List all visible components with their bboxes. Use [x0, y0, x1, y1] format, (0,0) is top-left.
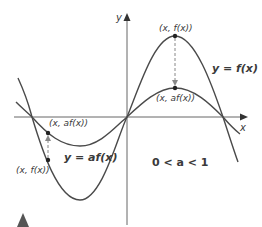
label-right-af: (x, af(x))	[156, 93, 195, 103]
right-compression-arrow	[172, 38, 178, 86]
x-axis-arrow-icon	[240, 114, 248, 121]
arrow-up-icon	[45, 135, 51, 141]
y-axis-label: y	[115, 12, 123, 23]
condition-label: 0 < a < 1	[152, 156, 208, 169]
label-left-f: (x, f(x))	[16, 165, 50, 175]
label-left-af: (x, af(x))	[49, 118, 88, 128]
point-left-f	[46, 158, 50, 162]
label-curve-f: y = f(x)	[212, 62, 258, 75]
arrow-down-icon	[172, 80, 178, 86]
y-axis-arrow-icon	[124, 13, 131, 21]
triangle-marker-icon	[17, 213, 29, 227]
point-right-af	[173, 86, 177, 90]
label-right-f: (x, f(x))	[159, 23, 193, 33]
x-axis-label: x	[239, 122, 246, 133]
label-curve-af: y = af(x)	[64, 151, 117, 164]
point-left-af	[46, 131, 50, 135]
transformation-diagram: x y (x, f(x)) (x, af(x)) (x, af(x)) (x, …	[0, 0, 262, 227]
left-compression-arrow	[45, 135, 51, 158]
point-right-f	[173, 34, 177, 38]
y-axis: y	[115, 12, 131, 225]
